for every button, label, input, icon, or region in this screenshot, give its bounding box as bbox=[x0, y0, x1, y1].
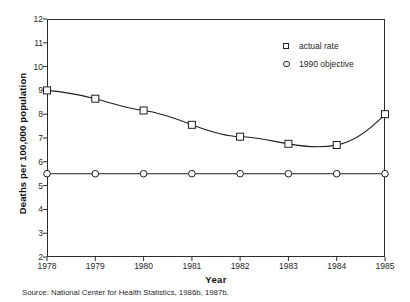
open-square-icon bbox=[281, 40, 293, 52]
legend-label: 1990 objective bbox=[299, 59, 354, 69]
chart-figure: 12 11 10 9 8 7 6 5 4 3 2 1978 1979 1980 … bbox=[0, 0, 410, 302]
y-axis-ticks bbox=[43, 19, 47, 257]
legend-item-1990-objective: 1990 objective bbox=[281, 56, 381, 72]
series-actual-rate-markers bbox=[44, 87, 389, 149]
legend-item-actual-rate: actual rate bbox=[281, 38, 381, 54]
chart-legend: actual rate 1990 objective bbox=[281, 38, 381, 74]
legend-label: actual rate bbox=[299, 41, 339, 51]
x-axis-ticks bbox=[47, 257, 385, 261]
open-circle-icon bbox=[281, 58, 293, 70]
source-note: Source: National Center for Health Stati… bbox=[22, 288, 229, 298]
